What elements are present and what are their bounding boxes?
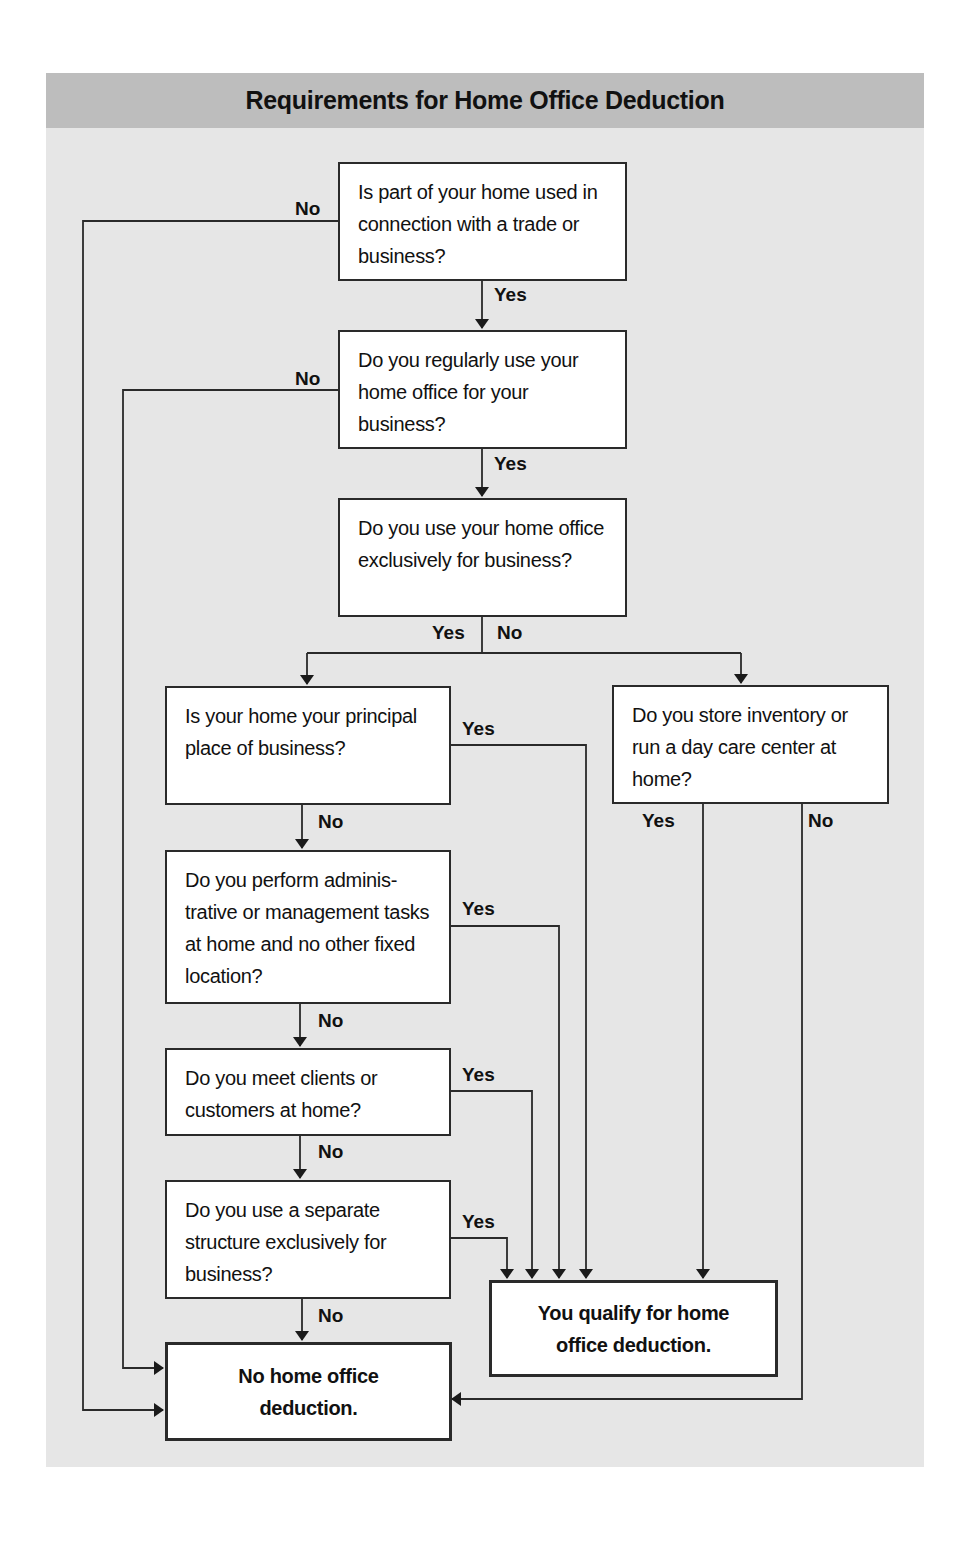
question-text: Do you use a separate structure exclusiv… [185,1199,386,1285]
edge-label-q2-yes: Yes [494,453,527,475]
edge-label-q6-yes: Yes [462,898,495,920]
edge-label-q7-no: No [318,1141,343,1163]
question-box-inventory-daycare: Do you store inventory or run a day care… [612,685,889,804]
outcome-box-qualify: You qualify for home office deduction. [489,1280,778,1377]
question-box-exclusive-use: Do you use your home office exclusively … [338,498,627,617]
outcome-text: No home office deduction. [218,1360,399,1424]
edge-label-q1-no: No [295,198,320,220]
question-text: Is your home your principal place of bus… [185,705,417,759]
question-text: Do you perform adminis-trative or manage… [185,869,429,987]
edge-label-q8-yes: Yes [462,1211,495,1233]
edge-label-q3-yes: Yes [432,622,465,644]
question-text: Do you regularly use your home office fo… [358,349,578,435]
question-box-regular-use: Do you regularly use your home office fo… [338,330,627,449]
question-box-separate-structure: Do you use a separate structure exclusiv… [165,1180,451,1299]
edge-label-q2-no: No [295,368,320,390]
edge-label-q3-no: No [497,622,522,644]
question-text: Is part of your home used in connection … [358,181,598,267]
edge-label-q6-no: No [318,1010,343,1032]
edge-label-q8-no: No [318,1305,343,1327]
edge-label-q5-yes: Yes [642,810,675,832]
question-text: Do you meet clients or customers at home… [185,1067,377,1121]
outcome-box-no-deduction: No home office deduction. [165,1342,452,1441]
question-box-principal-place: Is your home your principal place of bus… [165,686,451,805]
edge-label-q4-yes: Yes [462,718,495,740]
question-box-admin-tasks: Do you perform adminis-trative or manage… [165,850,451,1004]
edge-label-q5-no: No [808,810,833,832]
edge-label-q4-no: No [318,811,343,833]
question-box-trade-or-business: Is part of your home used in connection … [338,162,627,281]
question-text: Do you use your home office exclusively … [358,517,604,571]
question-box-meet-clients: Do you meet clients or customers at home… [165,1048,451,1136]
edge-label-q7-yes: Yes [462,1064,495,1086]
outcome-text: You qualify for home office deduction. [532,1297,735,1361]
question-text: Do you store inventory or run a day care… [632,704,848,790]
edge-label-q1-yes: Yes [494,284,527,306]
